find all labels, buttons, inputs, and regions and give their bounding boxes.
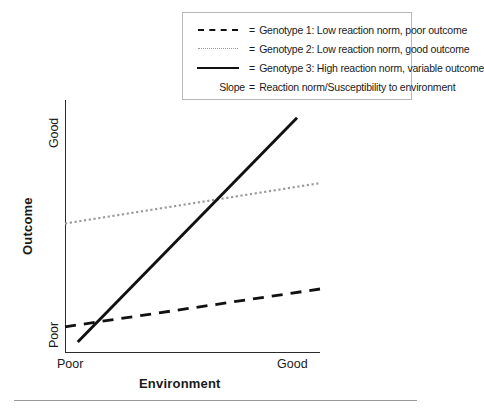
legend-equals-sign: = (247, 43, 259, 55)
series-line-genotype-2 (65, 183, 320, 223)
legend-item-genotype-3: = Genotype 3: High reaction norm, variab… (189, 58, 403, 77)
x-axis-tick-label-poor: Poor (57, 357, 83, 371)
series-line-genotype-3 (78, 118, 297, 342)
legend-key-solid-icon (189, 58, 247, 77)
legend-key-dotted-icon (189, 39, 247, 58)
chart-legend: = Genotype 1: Low reaction norm, poor ou… (182, 12, 412, 100)
y-axis-tick-label-good: Good (47, 118, 61, 148)
legend-item-genotype-1: = Genotype 1: Low reaction norm, poor ou… (189, 20, 403, 39)
legend-equals-sign: = (247, 24, 259, 36)
legend-item-genotype-2: = Genotype 2: Low reaction norm, good ou… (189, 39, 403, 58)
legend-label-genotype-3: Genotype 3: High reaction norm, variable… (259, 62, 484, 74)
legend-label-genotype-2: Genotype 2: Low reaction norm, good outc… (259, 43, 469, 55)
legend-rows: = Genotype 1: Low reaction norm, poor ou… (183, 13, 411, 99)
x-axis-tick-label-good: Good (277, 357, 308, 371)
legend-slope-word: Slope (189, 81, 247, 93)
y-axis-title: Outcome (20, 197, 35, 255)
legend-equals-sign: = (247, 81, 259, 93)
legend-equals-sign: = (247, 62, 259, 74)
footer-divider (14, 400, 417, 401)
legend-label-slope-note: Reaction norm/Susceptibility to environm… (259, 81, 455, 93)
legend-key-slope-text: Slope (189, 77, 247, 96)
series-line-genotype-1 (65, 289, 320, 327)
x-axis-title: Environment (139, 376, 221, 391)
y-axis-tick-label-poor: Poor (47, 322, 61, 348)
legend-label-genotype-1: Genotype 1: Low reaction norm, poor outc… (259, 24, 467, 36)
x-axis-line (65, 352, 320, 353)
legend-key-dashed-icon (189, 20, 247, 39)
y-axis-line (65, 100, 66, 353)
legend-item-slope-note: Slope = Reaction norm/Susceptibility to … (189, 77, 403, 96)
